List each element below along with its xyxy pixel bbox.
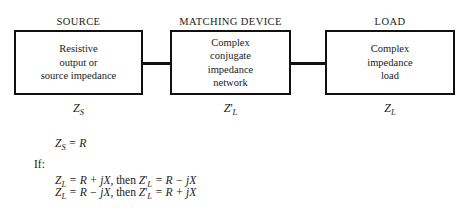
diagram-canvas: SOURCE MATCHING DEVICE LOAD Resistive ou… — [0, 0, 462, 215]
eq1-then: then — [116, 174, 136, 186]
block-line-source-3: source impedance — [41, 69, 117, 83]
block-line-matching-3: impedance — [208, 63, 253, 77]
z-label-matching-sub: L — [233, 107, 238, 117]
block-line-matching-1: Complex — [211, 36, 250, 50]
eq2-then: then — [116, 186, 136, 198]
block-line-source-1: Resistive — [59, 42, 98, 56]
block-line-load-3: load — [381, 69, 399, 83]
block-box-source: Resistive output or source impedance — [14, 30, 143, 95]
wire-source-to-matching — [142, 62, 172, 65]
block-header-load: LOAD — [325, 16, 455, 28]
equation-line-2: ZL = R − jX, then Z'L = R + jX — [55, 186, 196, 203]
block-line-load-2: impedance — [367, 56, 412, 70]
z-label-source-sub: S — [80, 107, 84, 117]
block-header-source: SOURCE — [14, 16, 143, 28]
equation-zs-rest: = R — [66, 137, 87, 149]
z-label-load: ZL — [325, 101, 455, 117]
block-box-matching-device: Complex conjugate impedance network — [170, 30, 291, 95]
eq1-lhs-rest: = R + jX, — [66, 174, 113, 186]
z-label-source: ZS — [14, 101, 143, 117]
wire-matching-to-load — [290, 62, 326, 65]
eq2-lhs-rest: = R − jX, — [66, 186, 113, 198]
equation-zs: ZS = R — [55, 137, 86, 154]
z-label-load-sub: L — [391, 107, 396, 117]
block-line-matching-2: conjugate — [210, 49, 251, 63]
z-label-source-main: Z — [73, 101, 80, 115]
eq1-rhs-rest: = R − jX — [152, 174, 196, 186]
block-header-matching-device: MATCHING DEVICE — [170, 16, 291, 28]
if-label: If: — [34, 158, 45, 170]
z-label-load-main: Z — [384, 101, 391, 115]
block-line-matching-4: network — [213, 76, 247, 90]
block-line-load-1: Complex — [371, 42, 410, 56]
block-box-load: Complex impedance load — [325, 30, 455, 95]
z-label-matching-device: Z'L — [170, 101, 291, 117]
eq2-rhs-rest: = R + jX — [152, 186, 196, 198]
block-line-source-2: output or — [59, 56, 97, 70]
